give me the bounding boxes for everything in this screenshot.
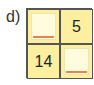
answer-cell-bottom-right[interactable] <box>60 44 93 79</box>
given-cell-top-right: 5 <box>60 9 93 44</box>
number-grid: 5 14 <box>26 8 92 78</box>
cell-value: 5 <box>72 18 81 36</box>
answer-underline <box>33 36 54 38</box>
exercise-label: d) <box>6 8 20 26</box>
cell-value: 14 <box>35 53 53 71</box>
answer-underline <box>66 71 87 73</box>
given-cell-bottom-left: 14 <box>27 44 60 79</box>
answer-cell-top-left[interactable] <box>27 9 60 44</box>
